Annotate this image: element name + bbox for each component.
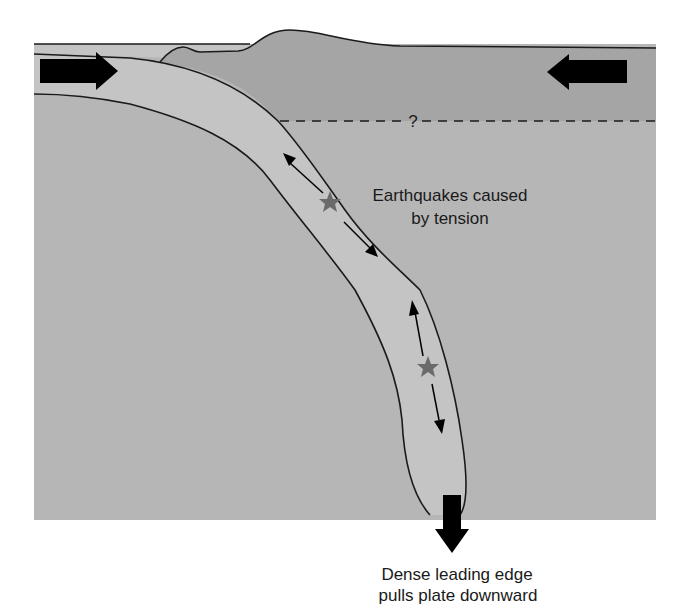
tension-label-line2: by tension: [411, 209, 489, 228]
tension-label-line1: Earthquakes caused: [373, 186, 528, 205]
subduction-diagram: ? Earthquakes caused by tension Dense le…: [0, 0, 684, 614]
unknown-boundary-label: ?: [408, 112, 417, 131]
slab-pull-label-line2: pulls plate downward: [379, 586, 538, 605]
slab-pull-label-line1: Dense leading edge: [381, 565, 532, 584]
